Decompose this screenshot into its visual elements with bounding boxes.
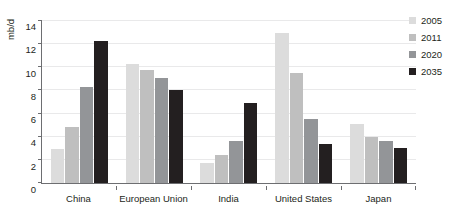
bar xyxy=(394,148,408,183)
bar-group xyxy=(42,21,117,183)
legend-label: 2035 xyxy=(421,66,442,77)
x-axis-label: European Union xyxy=(116,186,191,204)
bar xyxy=(379,141,393,183)
bar-group xyxy=(341,21,416,183)
legend-label: 2020 xyxy=(421,49,442,60)
bars-layer xyxy=(42,21,416,183)
bar-group xyxy=(117,21,192,183)
bar xyxy=(365,137,379,183)
bar xyxy=(350,124,364,183)
bar xyxy=(229,141,243,183)
bar-chart: mb/d 02468101214 ChinaEuropean UnionIndi… xyxy=(0,0,460,216)
x-axis-divider xyxy=(415,186,416,190)
bar xyxy=(200,163,214,183)
bar xyxy=(65,127,79,183)
bar xyxy=(275,33,289,183)
x-axis-label: Japan xyxy=(341,186,416,204)
x-axis-divider xyxy=(266,186,267,190)
x-axis-divider xyxy=(191,186,192,190)
legend-item[interactable]: 2020 xyxy=(409,46,442,63)
bar xyxy=(304,119,318,183)
legend-item[interactable]: 2011 xyxy=(409,29,442,46)
chart-legend: 2005201120202035 xyxy=(409,12,442,80)
bar-group xyxy=(192,21,267,183)
legend-label: 2011 xyxy=(421,32,441,43)
bar xyxy=(155,78,169,183)
x-axis-label: India xyxy=(191,186,266,204)
legend-item[interactable]: 2005 xyxy=(409,12,442,29)
plot-area: 02468101214 xyxy=(41,21,416,184)
x-axis-labels: ChinaEuropean UnionIndiaUnited StatesJap… xyxy=(41,186,416,204)
legend-swatch-icon xyxy=(409,34,416,41)
bar xyxy=(140,70,154,183)
bar xyxy=(215,155,229,183)
bar xyxy=(319,144,333,183)
bar xyxy=(244,103,258,183)
legend-swatch-icon xyxy=(409,17,416,24)
legend-item[interactable]: 2035 xyxy=(409,63,442,80)
bar xyxy=(94,41,108,183)
bar xyxy=(126,64,140,183)
bar xyxy=(169,90,183,183)
bar xyxy=(51,149,65,183)
x-axis-label: United States xyxy=(266,186,341,204)
legend-swatch-icon xyxy=(409,68,416,75)
legend-label: 2005 xyxy=(421,15,442,26)
x-axis-label: China xyxy=(41,186,116,204)
bar xyxy=(80,87,94,183)
x-axis-divider xyxy=(116,186,117,190)
x-axis-divider xyxy=(341,186,342,190)
bar xyxy=(290,73,304,183)
bar-group xyxy=(266,21,341,183)
legend-swatch-icon xyxy=(409,51,416,58)
y-axis-title: mb/d xyxy=(5,7,16,53)
